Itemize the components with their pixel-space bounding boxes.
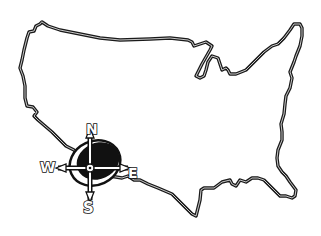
- compass-north-label: N: [86, 121, 98, 137]
- compass-south-label: S: [83, 199, 94, 217]
- compass-west-label: W: [40, 159, 55, 175]
- compass-east-label: E: [128, 165, 138, 181]
- us-outline: [20, 22, 302, 216]
- us-map-illustration: N E S W: [0, 0, 321, 236]
